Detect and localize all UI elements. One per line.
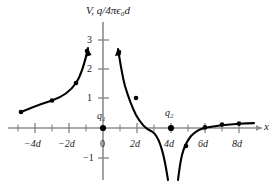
charge-label-q2: q₂ [165,108,173,118]
x-tick-label-0: 0 [100,139,105,149]
y-tick-label--1: −1 [83,153,94,163]
x-tick-label--2d: −2d [58,139,75,149]
marker-right-4 [237,121,242,126]
marker-right-1 [184,144,189,149]
charge-label-q1: q₁ [97,111,105,121]
x-axis-title: x [264,121,269,132]
y-tick-label-2: 2 [87,64,92,74]
y-tick-label-3: 3 [87,35,92,45]
marker-left-3 [74,81,79,86]
y-tick-label-1: 1 [87,93,92,103]
marker-left-4 [85,49,90,54]
curve-branch-left [21,48,88,112]
marker-mid-2 [134,96,139,101]
marker-right-2 [203,125,208,130]
chart-canvas [0,0,276,193]
x-axis-arrow [256,125,262,130]
x-tick-label-4d: 4d [164,139,174,149]
charge-dot-q2 [168,125,174,131]
charge-dot-q1 [100,125,106,131]
curve-branch-middle [118,49,168,180]
curve-branch-right [178,123,254,180]
marker-right-3 [220,122,225,127]
y-axis-title: V, q/4πϵ₀d [86,5,130,16]
y-axis-title-text: V, q/4πϵ₀d [86,4,130,16]
x-tick-label-6d: 6d [198,139,208,149]
marker-left-1 [19,110,24,115]
marker-left-2 [50,98,55,103]
x-tick-label--4d: −4d [24,139,41,149]
marker-mid-1 [117,50,122,55]
x-tick-label-8d: 8d [232,139,242,149]
potential-chart: V, q/4πϵ₀d x −4d −2d 0 2d 4d 6d 8d 3 2 1… [0,0,276,193]
x-axis-title-text: x [264,120,269,132]
x-tick-label-2d: 2d [130,139,140,149]
